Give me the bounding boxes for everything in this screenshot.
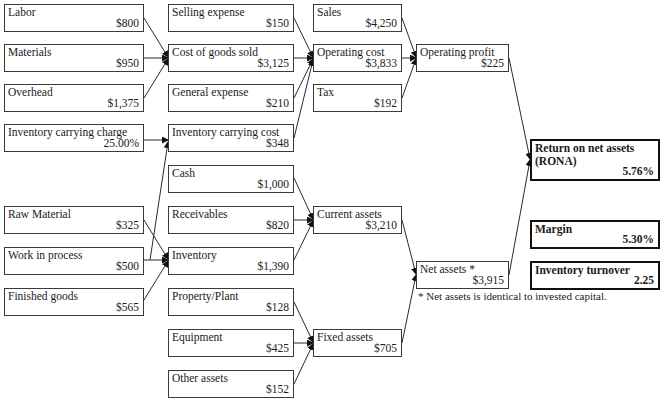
node-label: Overhead — [8, 86, 53, 99]
footnote: * Net assets is identical to invested ca… — [418, 290, 607, 302]
node-general-expense: General expense $210 — [168, 84, 294, 112]
node-label: Raw Material — [8, 208, 71, 221]
node-value: $225 — [481, 57, 504, 70]
node-value: 25.00% — [104, 137, 139, 150]
node-value: $500 — [116, 260, 139, 273]
node-value: 2.25 — [634, 274, 654, 287]
node-label: Fixed assets — [317, 331, 373, 344]
node-label: Labor — [8, 6, 35, 19]
node-materials: Materials $950 — [4, 44, 144, 72]
node-rona: Return on net assets (RONA) 5.76% — [530, 139, 660, 181]
node-label: Other assets — [172, 372, 228, 385]
node-value: $192 — [374, 97, 397, 110]
node-inventory: Inventory $1,390 — [168, 247, 294, 275]
node-value: $3,833 — [365, 57, 397, 70]
node-value: $565 — [116, 301, 139, 314]
node-label: Equipment — [172, 331, 222, 344]
node-inventory-carrying-charge: Inventory carrying charge 25.00% — [4, 124, 144, 152]
node-value: $3,210 — [365, 219, 397, 232]
node-value: $950 — [116, 57, 139, 70]
node-raw-material: Raw Material $325 — [4, 206, 144, 234]
node-tax: Tax $192 — [313, 84, 402, 112]
node-operating-profit: Operating profit $225 — [416, 44, 509, 72]
node-value: $152 — [266, 383, 289, 396]
node-fixed-assets: Fixed assets $705 — [313, 329, 402, 357]
node-label: Cost of goods sold — [172, 46, 258, 59]
node-inventory-carrying-cost: Inventory carrying cost $348 — [168, 124, 294, 152]
node-cash: Cash $1,000 — [168, 165, 294, 193]
node-current-assets: Current assets $3,210 — [313, 206, 402, 234]
node-label: Inventory turnover — [535, 264, 645, 277]
node-value: $1,000 — [257, 178, 289, 191]
node-value: $1,390 — [257, 260, 289, 273]
node-property-plant: Property/Plant $128 — [168, 288, 294, 316]
node-value: $3,915 — [472, 274, 504, 287]
node-value: 5.76% — [622, 165, 654, 178]
node-label: Selling expense — [172, 6, 245, 19]
node-label: Sales — [317, 6, 341, 19]
node-labor: Labor $800 — [4, 4, 144, 32]
node-work-in-process: Work in process $500 — [4, 247, 144, 275]
node-value: $425 — [266, 342, 289, 355]
node-label: Materials — [8, 46, 51, 59]
node-value: $348 — [266, 137, 289, 150]
node-value: $150 — [266, 17, 289, 30]
node-label: Inventory — [172, 249, 217, 262]
node-label: Tax — [317, 86, 334, 99]
node-selling-expense: Selling expense $150 — [168, 4, 294, 32]
node-operating-cost: Operating cost $3,833 — [313, 44, 402, 72]
node-inventory-turnover: Inventory turnover 2.25 — [530, 261, 660, 290]
node-label: Receivables — [172, 208, 228, 221]
node-label: Work in process — [8, 249, 82, 262]
node-other-assets: Other assets $152 — [168, 370, 294, 398]
node-label: Finished goods — [8, 290, 78, 303]
node-value: 5.30% — [622, 233, 654, 246]
node-receivables: Receivables $820 — [168, 206, 294, 234]
node-overhead: Overhead $1,375 — [4, 84, 144, 112]
node-label: Cash — [172, 167, 195, 180]
node-equipment: Equipment $425 — [168, 329, 294, 357]
node-sales: Sales $4,250 — [313, 4, 402, 32]
node-label: General expense — [172, 86, 248, 99]
node-finished-goods: Finished goods $565 — [4, 288, 144, 316]
node-label: Property/Plant — [172, 290, 238, 303]
node-value: $4,250 — [365, 17, 397, 30]
node-value: $705 — [374, 342, 397, 355]
node-value: $3,125 — [257, 57, 289, 70]
node-label: Inventory carrying cost — [172, 126, 279, 139]
node-label: Net assets * — [420, 263, 475, 276]
node-value: $325 — [116, 219, 139, 232]
node-cost-of-goods-sold: Cost of goods sold $3,125 — [168, 44, 294, 72]
node-value: $800 — [116, 17, 139, 30]
node-value: $1,375 — [107, 97, 139, 110]
node-value: $820 — [266, 219, 289, 232]
node-net-assets: Net assets * $3,915 — [416, 261, 509, 289]
node-value: $128 — [266, 301, 289, 314]
node-margin: Margin 5.30% — [530, 220, 660, 249]
node-value: $210 — [266, 97, 289, 110]
